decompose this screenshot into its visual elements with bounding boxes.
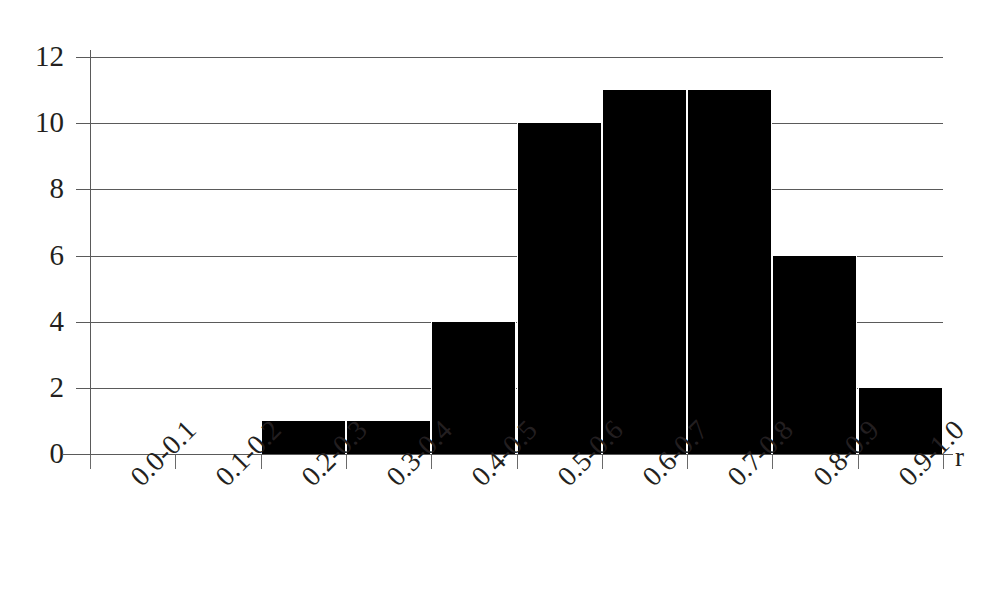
y-tick-mark	[76, 57, 91, 58]
y-tick-label: 8	[6, 174, 64, 203]
histogram-chart: 024681012 0.0-0.10.1-0.20.2-0.30.3-0.40.…	[0, 0, 999, 602]
x-axis-title: r	[955, 444, 964, 471]
y-tick-label: 10	[6, 108, 64, 137]
bar	[517, 123, 602, 454]
x-tick-mark	[90, 455, 91, 469]
bar	[602, 90, 687, 454]
y-tick-label: 4	[6, 307, 64, 336]
y-tick-label: 0	[6, 439, 64, 468]
y-tick-label: 6	[6, 241, 64, 270]
y-tick-mark	[76, 123, 91, 124]
y-tick-mark	[76, 256, 91, 257]
bar-series	[90, 57, 943, 454]
bar	[687, 90, 772, 454]
y-tick-mark	[76, 388, 91, 389]
y-tick-label: 2	[6, 373, 64, 402]
y-tick-label: 12	[6, 42, 64, 71]
y-tick-mark	[76, 189, 91, 190]
y-tick-mark	[76, 322, 91, 323]
